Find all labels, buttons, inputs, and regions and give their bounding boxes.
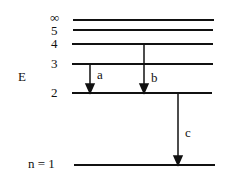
energy-axis-label: E (18, 70, 26, 83)
transition-a-label: a (97, 68, 103, 81)
transition-c-label: c (185, 126, 191, 139)
level-label-2: 2 (51, 86, 58, 99)
level-label-1: n = 1 (28, 157, 55, 170)
level-label-3: 3 (51, 57, 58, 70)
transition-b-label: b (151, 71, 158, 84)
level-label-4: 4 (51, 37, 58, 50)
energy-level-diagram (0, 0, 227, 180)
